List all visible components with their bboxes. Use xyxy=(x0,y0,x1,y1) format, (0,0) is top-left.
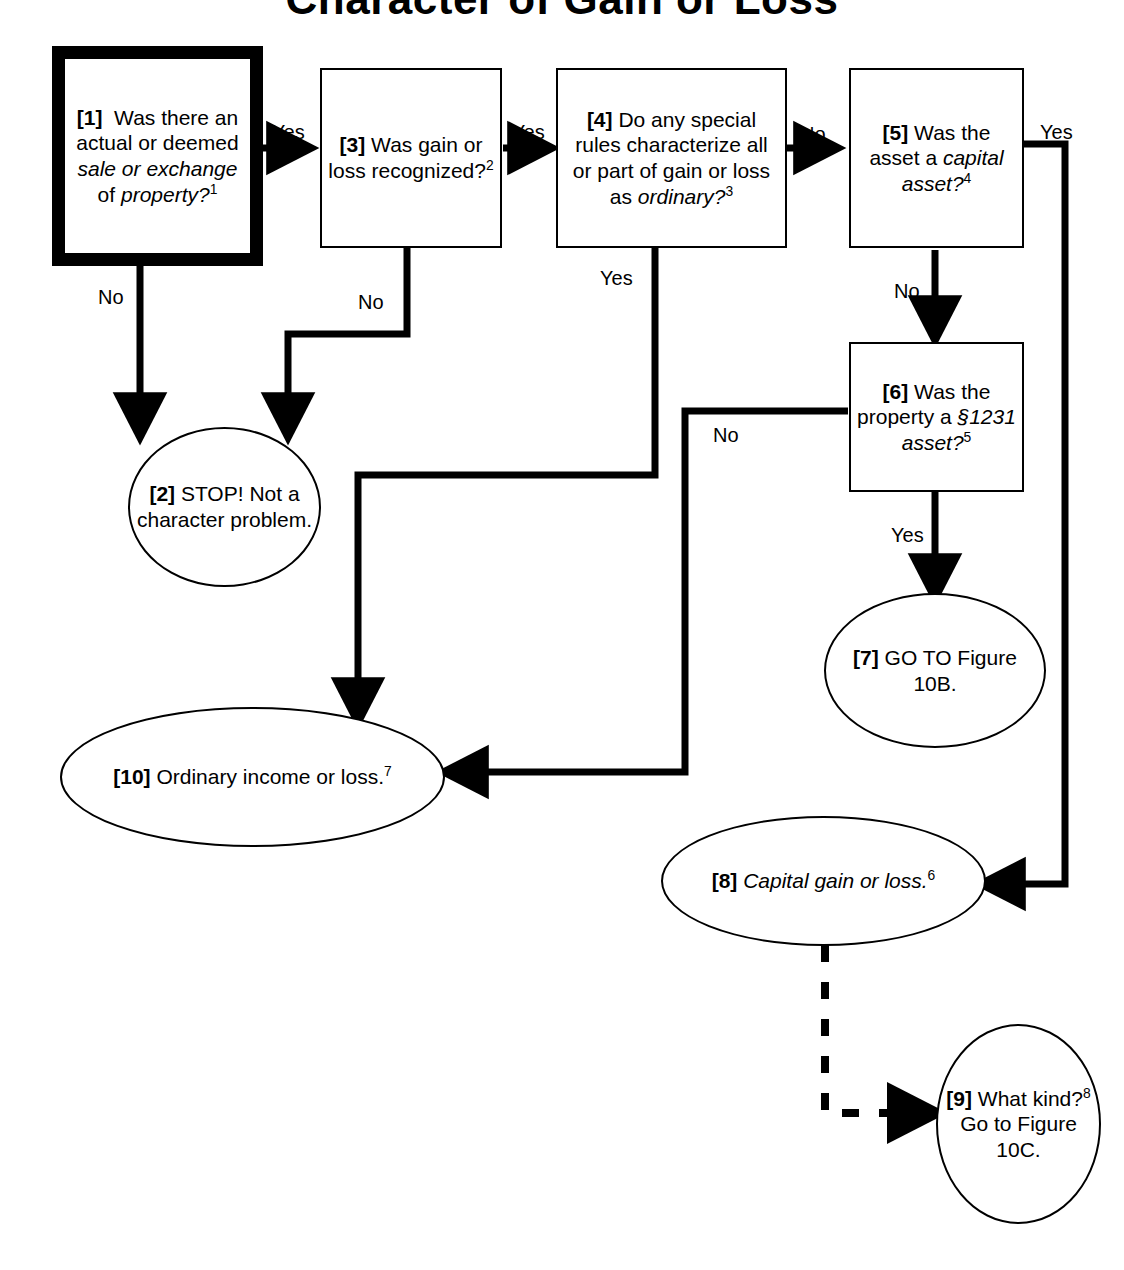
node-3-gain-or-loss-recognized[interactable]: [3] Was gain or loss recognized?2 xyxy=(320,68,502,248)
node-5-capital-asset[interactable]: [5] Was the asset a capital asset?4 xyxy=(849,68,1024,248)
node-6-section-1231-asset[interactable]: [6] Was the property a §1231 asset?5 xyxy=(849,342,1024,492)
node-2-stop-not-a-character-problem[interactable]: [2] STOP! Not a character problem. xyxy=(128,427,321,587)
flowchart-canvas: Character of Gain or Loss xyxy=(0,0,1124,1270)
edge-5-yes xyxy=(981,144,1065,884)
edge-label-6-no: No xyxy=(713,425,739,445)
node-1-label: [1] Was there an actual or deemed sale o… xyxy=(65,105,250,207)
edge-6-no xyxy=(444,411,848,772)
node-4-special-rules-ordinary[interactable]: [4] Do any special rules characterize al… xyxy=(556,68,787,248)
edge-label-5-no: No xyxy=(894,281,920,301)
node-3-label: [3] Was gain or loss recognized?2 xyxy=(322,132,500,183)
node-7-label: [7] GO TO Figure 10B. xyxy=(826,645,1044,696)
node-1-sale-or-exchange[interactable]: [1] Was there an actual or deemed sale o… xyxy=(52,46,263,266)
node-7-go-to-figure-10b[interactable]: [7] GO TO Figure 10B. xyxy=(824,593,1046,748)
node-10-ordinary-income-or-loss[interactable]: [10] Ordinary income or loss.7 xyxy=(60,707,445,847)
node-8-label: [8] Capital gain or loss.6 xyxy=(706,868,942,894)
node-4-label: [4] Do any special rules characterize al… xyxy=(558,107,785,209)
edge-label-5-yes: Yes xyxy=(1040,122,1073,142)
edge-label-3-no: No xyxy=(358,292,384,312)
node-6-label: [6] Was the property a §1231 asset?5 xyxy=(851,379,1022,456)
edge-3-no xyxy=(288,248,407,437)
node-9-label: [9] What kind?8 Go to Figure 10C. xyxy=(938,1086,1099,1163)
edge-label-6-yes: Yes xyxy=(891,525,924,545)
node-8-capital-gain-or-loss[interactable]: [8] Capital gain or loss.6 xyxy=(661,816,986,946)
node-9-what-kind-figure-10c[interactable]: [9] What kind?8 Go to Figure 10C. xyxy=(936,1024,1101,1224)
node-10-label: [10] Ordinary income or loss.7 xyxy=(107,764,398,790)
node-2-label: [2] STOP! Not a character problem. xyxy=(130,481,319,532)
edge-label-3-yes: Yes xyxy=(512,122,545,142)
edge-label-1-yes: Yes xyxy=(272,122,305,142)
edge-label-4-yes: Yes xyxy=(600,268,633,288)
edge-8-to-9-dashed xyxy=(825,945,938,1113)
figure-title: Character of Gain or Loss xyxy=(0,0,1124,24)
edge-4-yes xyxy=(358,248,655,722)
node-5-label: [5] Was the asset a capital asset?4 xyxy=(851,120,1022,197)
edge-label-4-no: No xyxy=(800,124,826,144)
edge-label-1-no: No xyxy=(98,287,124,307)
